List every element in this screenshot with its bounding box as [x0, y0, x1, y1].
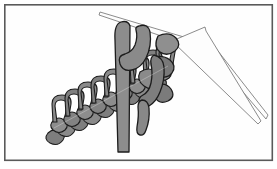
yarn-vertical-strand — [115, 22, 130, 153]
yarn-wrap-over-needle — [156, 34, 179, 54]
illustration-canvas — [0, 0, 277, 169]
knitting-illustration: Knitting technique illustration Line-art… — [0, 0, 277, 169]
